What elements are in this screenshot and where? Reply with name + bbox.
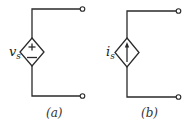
plus-sign-icon — [29, 44, 36, 51]
caption-b: (b) — [141, 107, 158, 119]
panel-a-dependent-voltage-source — [20, 7, 85, 99]
caption-a: (a) — [46, 107, 63, 119]
circuit-diagram — [0, 0, 187, 125]
terminal-bottom-a — [80, 94, 85, 99]
label-vs-sub: s — [16, 51, 21, 61]
panel-b-dependent-current-source — [115, 9, 181, 100]
wire-top-a — [32, 9, 80, 38]
label-is-sub: s — [110, 51, 115, 61]
label-vs: vs — [9, 45, 21, 61]
terminal-top-b — [176, 9, 181, 14]
wire-bottom-b — [127, 67, 176, 97]
caption-a-text: (a) — [46, 106, 63, 120]
caption-b-text: (b) — [141, 106, 158, 120]
label-is: is — [106, 45, 115, 61]
arrow-up-icon — [125, 42, 129, 62]
wire-top-b — [127, 11, 176, 38]
wire-bottom-a — [32, 66, 80, 96]
terminal-top-a — [80, 7, 85, 12]
diamond-source-icon-a — [20, 38, 44, 66]
terminal-bottom-b — [176, 95, 181, 100]
